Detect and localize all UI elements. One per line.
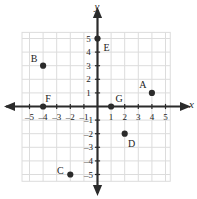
coordinate-plane: –5–4–3–2–11234554321–1–2–3–4–5ABCDEFGyx — [0, 0, 197, 199]
point-label-e: E — [103, 41, 109, 52]
y-tick-label: 5 — [86, 34, 91, 44]
y-tick-label: –4 — [84, 156, 93, 166]
data-point-g — [108, 103, 114, 109]
data-point-c — [67, 171, 73, 177]
y-axis-arrow-down — [93, 185, 102, 196]
point-label-b: B — [31, 52, 38, 63]
x-tick-label: –3 — [52, 112, 61, 122]
x-tick-label: –5 — [25, 112, 34, 122]
x-tick-label: 1 — [109, 112, 114, 122]
x-tick-label: 4 — [150, 112, 155, 122]
y-tick-label: –5 — [84, 170, 93, 180]
x-axis-label: x — [189, 98, 194, 110]
x-tick-label: 3 — [136, 112, 141, 122]
point-label-a: A — [139, 78, 146, 89]
y-tick-label: –1 — [84, 115, 93, 125]
y-tick-label: –3 — [84, 142, 93, 152]
point-label-d: D — [128, 137, 135, 148]
data-point-b — [40, 63, 46, 69]
x-tick-label: 5 — [163, 112, 168, 122]
x-tick-label: 2 — [122, 112, 127, 122]
y-tick-label: 3 — [86, 61, 91, 71]
data-point-a — [149, 90, 155, 96]
y-axis-label: y — [95, 0, 100, 12]
y-tick-label: 4 — [86, 47, 91, 57]
y-tick-label: 1 — [86, 88, 91, 98]
data-point-d — [122, 131, 128, 137]
point-label-g: G — [115, 92, 122, 103]
y-tick-label: 2 — [86, 74, 91, 84]
grid-and-axes — [0, 0, 197, 199]
data-point-e — [94, 35, 100, 41]
point-label-c: C — [57, 164, 64, 175]
data-point-f — [40, 103, 46, 109]
x-tick-label: –2 — [66, 112, 75, 122]
x-tick-label: –4 — [39, 112, 48, 122]
y-tick-label: –2 — [84, 129, 93, 139]
x-axis-arrow-left — [4, 102, 15, 111]
point-label-f: F — [45, 92, 51, 103]
